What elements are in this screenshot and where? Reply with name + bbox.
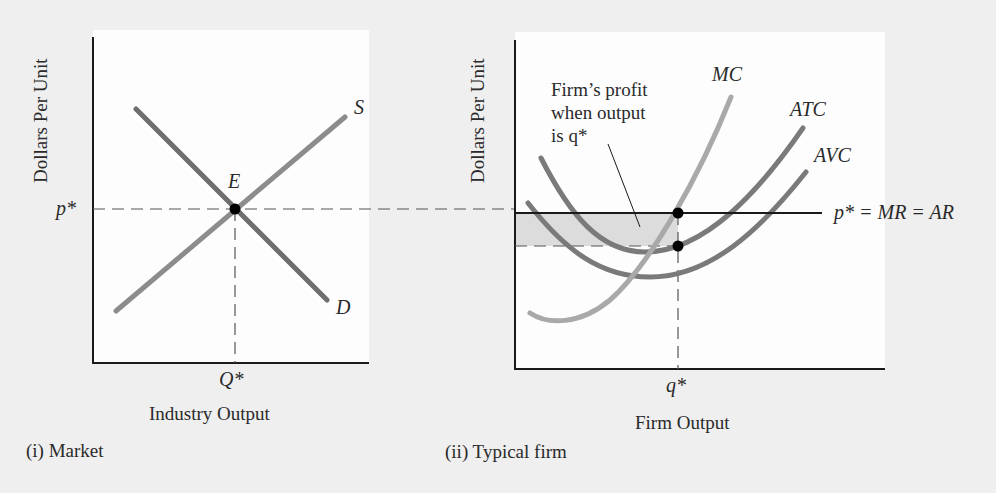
market-x-axis-label: Industry Output [149, 403, 270, 425]
firm-qty-tick: q* [666, 374, 686, 397]
profit-annotation-line-2: when output [551, 101, 648, 124]
price-line-label: p* = MR = AR [834, 201, 954, 224]
avc-label: AVC [814, 144, 851, 167]
market-caption: (i) Market [26, 440, 104, 462]
market-y-axis-label: Dollars Per Unit [30, 58, 52, 183]
mc-label: MC [712, 63, 742, 86]
equilibrium-label: E [228, 170, 240, 193]
firm-y-axis-label: Dollars Per Unit [467, 58, 489, 183]
firm-caption: (ii) Typical firm [445, 441, 567, 463]
market-price-tick: p* [56, 197, 76, 220]
market-qty-tick: Q* [219, 368, 243, 391]
market-chart [92, 37, 515, 364]
firm-x-axis-label: Firm Output [635, 412, 729, 434]
supply-label: S [354, 96, 364, 119]
demand-label: D [336, 296, 350, 319]
equilibrium-point [230, 204, 241, 215]
mr-mc-point [673, 208, 684, 219]
profit-annotation-line-1: Firm’s profit [551, 78, 648, 101]
profit-annotation-line-3: is q* [551, 124, 648, 147]
profit-annotation: Firm’s profit when output is q* [551, 78, 648, 147]
atc-label: ATC [790, 98, 826, 121]
atc-at-qstar-point [673, 241, 684, 252]
